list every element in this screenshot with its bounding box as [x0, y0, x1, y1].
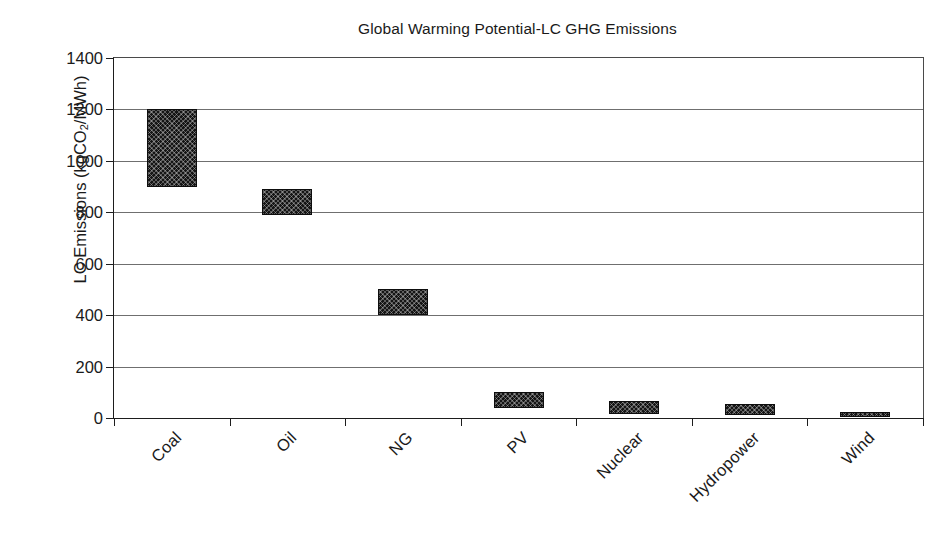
bar — [609, 401, 659, 414]
x-axis-tick-label: Oil — [273, 428, 301, 456]
x-axis-tick-label: Hydropower — [685, 428, 763, 506]
y-axis-tick-label: 800 — [43, 203, 103, 222]
bar — [494, 392, 544, 407]
x-axis-tick-label: NG — [385, 428, 416, 459]
x-axis-tick — [807, 418, 808, 426]
gridline — [114, 212, 923, 213]
y-axis-tick-label: 1200 — [43, 100, 103, 119]
y-axis-tick-label: 1400 — [43, 49, 103, 68]
y-axis-tick — [106, 58, 114, 59]
x-axis-tick — [576, 418, 577, 426]
y-axis-tick — [106, 212, 114, 213]
gridline — [114, 161, 923, 162]
x-axis-tick-label: Coal — [147, 428, 185, 466]
y-axis-tick — [106, 161, 114, 162]
y-axis-tick — [106, 315, 114, 316]
y-axis-tick-label: 0 — [43, 409, 103, 428]
gridline — [114, 367, 923, 368]
x-axis-tick — [230, 418, 231, 426]
bar — [147, 109, 197, 186]
bar — [725, 404, 775, 416]
x-axis-tick — [692, 418, 693, 426]
x-axis-tick — [345, 418, 346, 426]
y-axis-tick — [106, 264, 114, 265]
gridline — [114, 264, 923, 265]
y-axis-tick-label: 200 — [43, 357, 103, 376]
x-axis-tick-label: Nuclear — [593, 428, 648, 483]
bar — [262, 189, 312, 215]
y-axis-tick — [106, 109, 114, 110]
chart-title: Global Warming Potential-LC GHG Emission… — [113, 20, 922, 38]
gridline — [114, 109, 923, 110]
y-axis-tick-label: 1000 — [43, 151, 103, 170]
y-axis-tick-label: 400 — [43, 306, 103, 325]
bar — [840, 412, 890, 417]
x-axis-tick — [114, 418, 115, 426]
x-axis-tick-label: Wind — [838, 428, 879, 469]
x-axis-tick-label: PV — [503, 428, 532, 457]
y-axis-tick — [106, 418, 114, 419]
x-axis-tick — [461, 418, 462, 426]
x-axis-tick — [923, 418, 924, 426]
chart-figure: Global Warming Potential-LC GHG Emission… — [0, 0, 942, 534]
y-axis-tick — [106, 367, 114, 368]
plot-area: 0200400600800100012001400CoalOilNGPVNucl… — [113, 57, 924, 419]
bar — [378, 289, 428, 315]
y-axis-tick-label: 600 — [43, 254, 103, 273]
gridline — [114, 315, 923, 316]
y-axis-title-subscript: 2 — [78, 124, 90, 130]
